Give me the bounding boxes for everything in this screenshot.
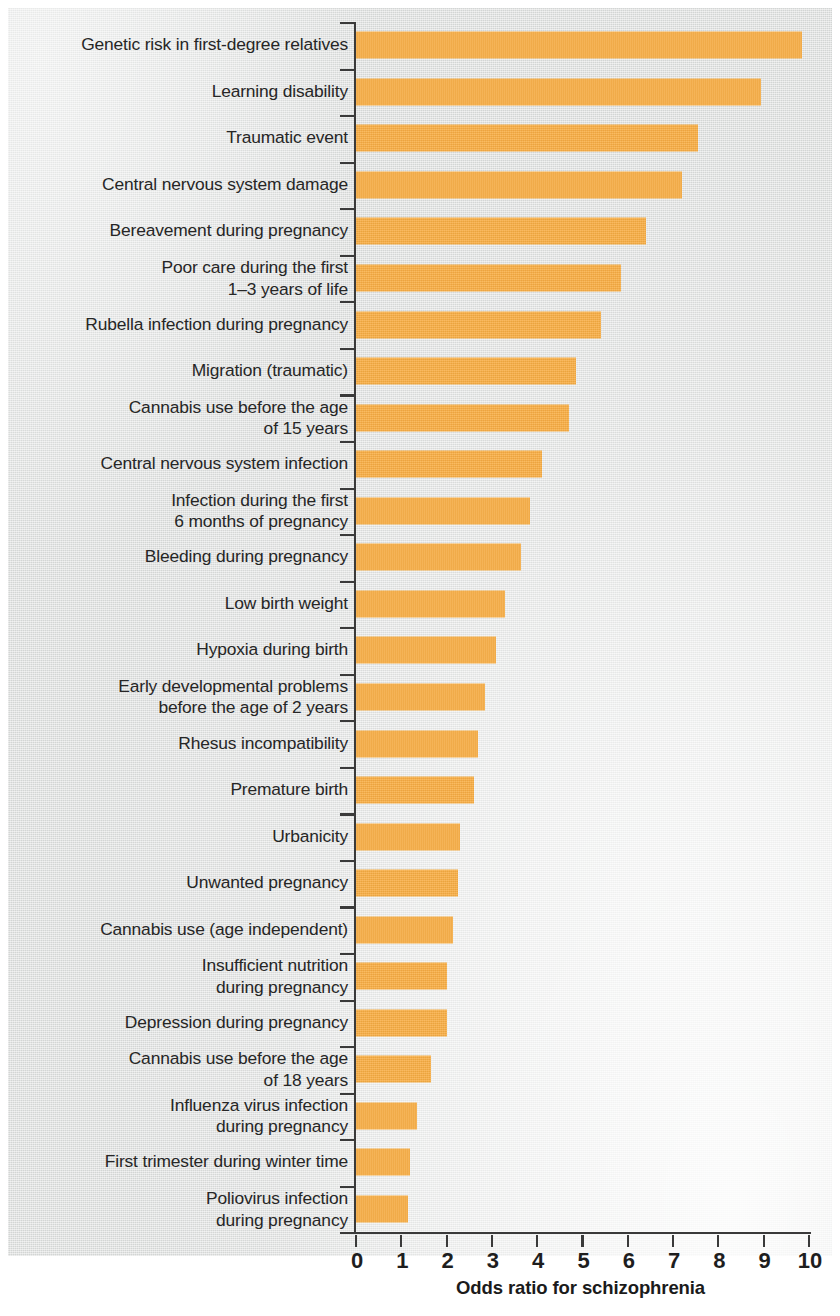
x-axis-tick [400, 1235, 402, 1247]
y-axis-tick [340, 394, 354, 396]
bar-category-label: Rubella infection during pregnancy [85, 314, 348, 336]
bar-category-label: Traumatic event [226, 128, 348, 150]
y-axis-tick [340, 720, 354, 722]
y-axis-tick [340, 208, 354, 210]
bar-category-label: Central nervous system damage [102, 174, 348, 196]
bar [356, 870, 458, 897]
bar [356, 171, 682, 198]
bar-row: Poliovirus infection during pregnancy [0, 1186, 840, 1233]
bar-row: Insufficient nutrition during pregnancy [0, 953, 840, 1000]
y-axis-tick [340, 1186, 354, 1188]
bar [356, 311, 601, 338]
bar-category-label: Learning disability [212, 81, 348, 103]
bar-row: Cannabis use before the age of 18 years [0, 1046, 840, 1093]
bar-row: Infection during the first 6 months of p… [0, 488, 840, 535]
bar [356, 730, 478, 757]
bar-category-label: Cannabis use (age independent) [100, 919, 348, 941]
bar-row: Migration (traumatic) [0, 348, 840, 395]
bar [356, 451, 542, 478]
y-axis-tick [340, 767, 354, 769]
bar [356, 1009, 447, 1036]
y-axis-tick [340, 534, 354, 536]
bar-row: Early developmental problems before the … [0, 674, 840, 721]
y-axis-tick [340, 906, 354, 908]
bar [356, 1102, 417, 1129]
y-axis-tick [340, 255, 354, 257]
bar-row: Rhesus incompatibility [0, 720, 840, 767]
x-axis-tick-label: 3 [473, 1248, 513, 1274]
x-axis-tick-label: 6 [609, 1248, 649, 1274]
bar [356, 823, 460, 850]
bar-category-label: Migration (traumatic) [192, 360, 348, 382]
bar-category-label: Early developmental problems before the … [118, 675, 348, 718]
x-axis-tick-label: 5 [564, 1248, 604, 1274]
x-axis-tick [672, 1235, 674, 1247]
x-axis-tick-label: 8 [699, 1248, 739, 1274]
bar-category-label: Poor care during the first 1–3 years of … [161, 257, 348, 300]
x-axis-tick [808, 1235, 810, 1247]
bar-row: Depression during pregnancy [0, 1000, 840, 1047]
y-axis-tick [340, 813, 354, 815]
x-axis-tick [446, 1235, 448, 1247]
y-axis-tick [340, 1000, 354, 1002]
bar [356, 404, 569, 431]
x-axis-tick [627, 1235, 629, 1247]
bar-category-label: Bereavement during pregnancy [110, 221, 348, 243]
bar-row: Poor care during the first 1–3 years of … [0, 255, 840, 302]
y-axis-tick [340, 953, 354, 955]
bar-row: Bleeding during pregnancy [0, 534, 840, 581]
bar-category-label: Central nervous system infection [101, 453, 348, 475]
y-axis-tick [340, 488, 354, 490]
bar [356, 78, 761, 105]
bar-row: Bereavement during pregnancy [0, 208, 840, 255]
bar-category-label: Low birth weight [225, 593, 348, 615]
y-axis-line [354, 22, 356, 1232]
bar-category-label: Hypoxia during birth [196, 640, 348, 662]
x-axis-tick-label: 7 [654, 1248, 694, 1274]
bar-row: Central nervous system infection [0, 441, 840, 488]
bar [356, 637, 496, 664]
bar-category-label: Depression during pregnancy [125, 1012, 348, 1034]
bar-category-label: First trimester during winter time [105, 1152, 348, 1174]
y-axis-tick [340, 581, 354, 583]
bar-row: Traumatic event [0, 115, 840, 162]
bar-category-label: Infection during the first 6 months of p… [171, 489, 348, 532]
bar [356, 544, 521, 571]
bar-row: Cannabis use before the age of 15 years [0, 394, 840, 441]
y-axis-tick [340, 1232, 354, 1234]
bar-category-label: Poliovirus infection during pregnancy [206, 1188, 348, 1231]
x-axis-tick [717, 1235, 719, 1247]
figure-root: Genetic risk in first-degree relativesLe… [0, 0, 840, 1316]
horizontal-bar-chart: Genetic risk in first-degree relativesLe… [0, 0, 840, 1316]
y-axis-tick [340, 441, 354, 443]
x-axis-tick [355, 1235, 357, 1247]
y-axis-tick [340, 860, 354, 862]
bar [356, 963, 447, 990]
y-axis-tick [340, 348, 354, 350]
y-axis-tick [340, 1093, 354, 1095]
x-axis-tick-label: 9 [745, 1248, 785, 1274]
bar-category-label: Cannabis use before the age of 18 years [129, 1048, 348, 1091]
bar [356, 777, 474, 804]
bar-row: Low birth weight [0, 581, 840, 628]
y-axis-tick [340, 22, 354, 24]
y-axis-tick [340, 162, 354, 164]
x-axis-tick-label: 2 [428, 1248, 468, 1274]
bar-category-label: Genetic risk in first-degree relatives [81, 35, 348, 57]
bar-row: Learning disability [0, 69, 840, 116]
bar-category-label: Rhesus incompatibility [178, 733, 348, 755]
x-axis-tick-label: 0 [337, 1248, 377, 1274]
bar-category-label: Urbanicity [272, 826, 348, 848]
x-axis-tick-label: 1 [382, 1248, 422, 1274]
bar-row: Central nervous system damage [0, 162, 840, 209]
bar-category-label: Cannabis use before the age of 15 years [129, 396, 348, 439]
bar [356, 32, 802, 59]
bar-category-label: Premature birth [230, 779, 348, 801]
y-axis-tick [340, 69, 354, 71]
bar-category-label: Unwanted pregnancy [186, 872, 348, 894]
x-axis-tick [763, 1235, 765, 1247]
bar-row: Influenza virus infection during pregnan… [0, 1093, 840, 1140]
bar [356, 265, 621, 292]
y-axis-tick [340, 1046, 354, 1048]
bar [356, 358, 576, 385]
